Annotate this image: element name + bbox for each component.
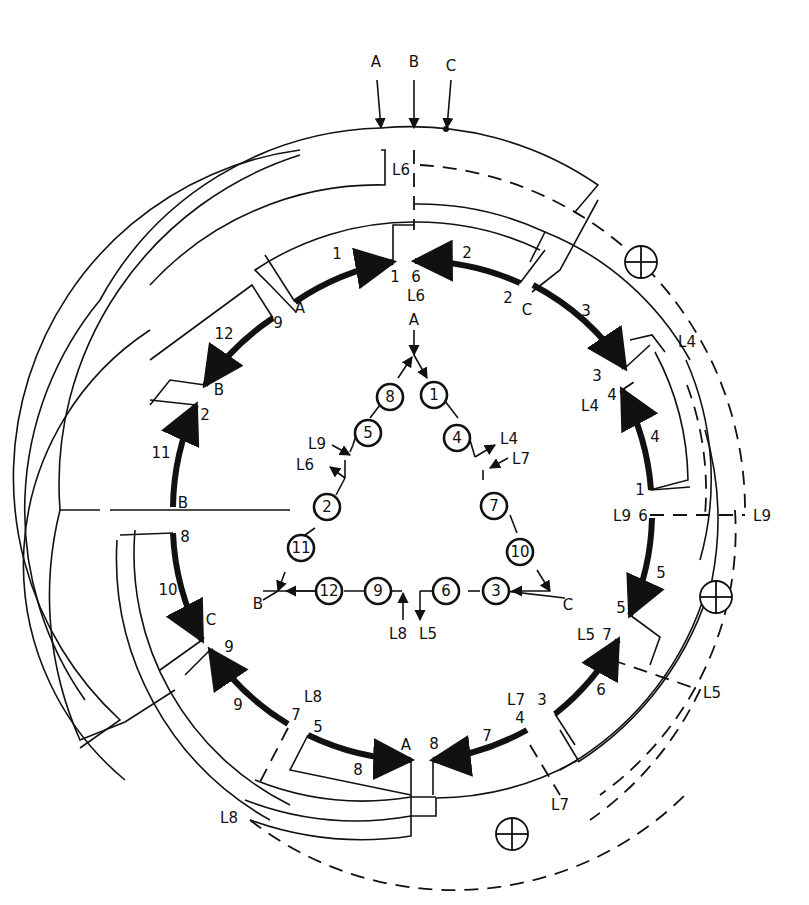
lead-l4-path: [687, 385, 706, 515]
schematic-coil-10: 10: [507, 539, 533, 565]
endpoint-b-upper: B: [214, 381, 224, 399]
schematic-coil-3: 3: [483, 578, 509, 604]
circle-plus-icon: [700, 581, 732, 613]
wire: [505, 591, 565, 598]
lead-c-arrow: [447, 80, 451, 128]
endpoint-1-right: 1: [635, 481, 645, 499]
wire: [278, 572, 285, 591]
endpoint-l8: L8: [304, 688, 322, 706]
group-label-11: 11: [151, 444, 170, 462]
group-label-2: 2: [462, 244, 472, 262]
endpoint-7-left: 7: [291, 706, 301, 724]
coil-label: 8: [385, 388, 395, 406]
conductor-bottom-3: [250, 795, 411, 840]
outer-lead-l8: L8: [220, 809, 238, 827]
group-label-7: 7: [482, 727, 492, 745]
endpoint-8-left: 8: [180, 528, 190, 546]
endpoint-l7: L7: [507, 691, 525, 709]
coil-label: 11: [291, 539, 310, 557]
coil-label: 4: [452, 429, 462, 447]
group-6-arc: [555, 640, 618, 714]
wire: [350, 445, 353, 452]
group-label-12: 12: [214, 325, 233, 343]
schematic-a-left: [398, 357, 412, 378]
conductor-right-mid: [686, 360, 711, 560]
lead-l5-path: [600, 510, 736, 795]
group-label-9: 9: [233, 696, 243, 714]
endpoint-8-bottom: 8: [429, 735, 439, 753]
endpoint-6: 6: [411, 268, 421, 286]
schematic-a-right: [414, 355, 427, 378]
conductor-ring-top-right: [414, 204, 545, 262]
circle-plus-icon: [625, 246, 657, 278]
conductor-top-right-jumper: [532, 200, 598, 292]
schematic-lead-l4: L4: [500, 430, 518, 448]
outer-lead-l4: L4: [678, 333, 696, 351]
lead-c-label: C: [446, 57, 456, 75]
stub-3-bottom: [555, 714, 575, 745]
group-label-3: 3: [581, 302, 591, 320]
endpoint-a-bottom: A: [401, 736, 412, 754]
conductor-left-loop: [49, 510, 175, 740]
endpoint-b-left: B: [178, 494, 188, 512]
supply-leads: A B C: [371, 53, 456, 132]
endpoint-9-upper: 9: [273, 314, 283, 332]
endpoint-l5: L5: [577, 626, 595, 644]
schematic-lead-l6: L6: [296, 456, 314, 474]
schematic-coil-4: 4: [444, 425, 470, 451]
endpoint-2: 2: [503, 289, 513, 307]
endpoint-c-top: C: [522, 301, 532, 319]
coil-label: 1: [429, 386, 439, 404]
coil-label: 9: [373, 582, 383, 600]
lead-l8-path: [250, 790, 690, 890]
winding-diagram: A B C: [0, 0, 809, 905]
wire: [330, 467, 345, 478]
coil-label: 5: [363, 424, 373, 442]
delta-schematic: A B L9 L6 C L4 L7: [253, 311, 573, 643]
wire: [336, 478, 345, 495]
group-8-arc: [308, 735, 411, 760]
outer-lead-l5: L5: [703, 684, 721, 702]
circle-plus-icon: [496, 818, 528, 850]
endpoint-6-right: 6: [638, 507, 648, 525]
endpoint-1: 1: [390, 268, 400, 286]
endpoint-l9: L9: [613, 507, 631, 525]
endpoint-5-bottom: 5: [313, 718, 323, 736]
schematic-node-a: A: [409, 311, 420, 329]
schematic-node-b: B: [253, 595, 263, 613]
stub-4-right: [622, 378, 640, 390]
wire: [332, 445, 350, 455]
group-label-4: 4: [650, 428, 660, 446]
endpoint-7-right: 7: [602, 626, 612, 644]
outer-lead-l6: L6: [392, 161, 410, 179]
conductor-ring-top-left: [255, 222, 414, 312]
coil-label: 10: [510, 543, 529, 561]
stub-c-left: [160, 640, 202, 670]
wire: [510, 515, 517, 533]
lead-b-label: B: [409, 53, 419, 71]
lead-l7-path: [530, 745, 560, 795]
group-label-8: 8: [353, 761, 363, 779]
lead-a-label: A: [371, 53, 382, 71]
endpoint-2-left: 2: [200, 406, 210, 424]
endpoint-a: A: [295, 299, 306, 317]
coil-label: 3: [491, 582, 501, 600]
wire: [263, 591, 278, 600]
schematic-coil-8: 8: [377, 384, 403, 410]
endpoint-3: 3: [592, 367, 602, 385]
wire: [470, 440, 475, 457]
conductor-left-inner: [23, 330, 150, 780]
stub-3-right: [625, 345, 650, 368]
stub-8: [120, 533, 173, 535]
schematic-coil-9: 9: [365, 578, 391, 604]
schematic-coil-12: 12: [316, 578, 342, 604]
endpoint-4: 4: [607, 386, 617, 404]
outer-lead-l9: L9: [753, 507, 771, 525]
stub-5: [290, 735, 411, 795]
coil-label: 12: [319, 582, 338, 600]
coil-label: 6: [441, 582, 451, 600]
endpoint-labels: A 1 6 L6 2 C 3 4 L4 1 L9 6 5 L5 7 3 L7 4…: [178, 268, 648, 754]
schematic-coil-1: 1: [421, 382, 447, 408]
endpoint-3-bottom: 3: [537, 691, 547, 709]
schematic-lead-l5: L5: [419, 625, 437, 643]
